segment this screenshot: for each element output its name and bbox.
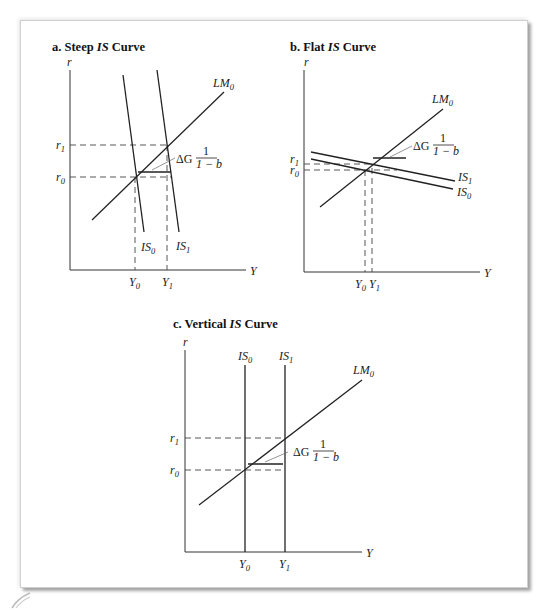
panel-b-lm0-label: LM0 — [431, 92, 454, 108]
panel-b-y-axis-label: r — [304, 55, 309, 69]
panel-a-is1-label: IS1 — [175, 239, 190, 255]
panel-c-multiplier-label: ΔG 1 1 − b — [293, 437, 339, 464]
panel-c-r1-label: r1 — [170, 431, 179, 447]
panel-a-title: a. Steep IS Curve — [52, 40, 146, 54]
panel-b-is0-label: IS0 — [456, 185, 472, 201]
panel-c-is0-label: IS0 — [237, 349, 253, 365]
panel-a-r1-label: r1 — [56, 138, 65, 154]
panel-a-lm0-label: LM0 — [212, 76, 235, 92]
svg-text:1 − b: 1 − b — [433, 144, 459, 158]
panel-b-flat-is: b. Flat IS Curve r Y LM0 IS1 IS0 r1 r0 Y… — [290, 40, 492, 293]
panel-a-y0-label: Y0 — [129, 275, 141, 291]
panel-c-lm0-label: LM0 — [352, 363, 375, 379]
svg-text:1 − b: 1 − b — [196, 157, 222, 171]
svg-text:1: 1 — [320, 437, 326, 451]
svg-text:ΔG: ΔG — [413, 139, 430, 153]
panel-a-is0-label: IS0 — [140, 240, 156, 256]
svg-text:1: 1 — [203, 144, 209, 158]
svg-text:1 − b: 1 − b — [313, 450, 339, 464]
panel-b-y0-label: Y0 — [355, 277, 367, 293]
panel-b-multiplier-label: ΔG 1 1 − b — [413, 131, 459, 158]
panel-b-is0-curve — [311, 159, 453, 189]
panel-a-y1-label: Y1 — [162, 275, 173, 291]
panel-c-r0-label: r0 — [170, 463, 180, 479]
page-curl-icon — [10, 590, 32, 610]
panel-b-shift-leader — [390, 146, 412, 157]
panel-c-x-axis-label: Y — [366, 546, 374, 560]
panel-b-title: b. Flat IS Curve — [290, 40, 377, 54]
panel-a-is0-curve — [123, 75, 144, 232]
panel-a-shift-leader — [152, 158, 175, 170]
panel-b-x-axis-label: Y — [484, 266, 492, 280]
panel-b-is1-label: IS1 — [457, 170, 472, 186]
panel-c-y1-label: Y1 — [279, 557, 290, 573]
is-lm-figure: a. Steep IS Curve r Y LM0 IS0 IS1 r1 r0 … — [0, 0, 548, 613]
panel-c-y-axis-label: r — [183, 335, 188, 349]
svg-text:ΔG: ΔG — [293, 445, 310, 459]
panel-a-is1-curve — [157, 70, 179, 232]
panel-a-steep-is: a. Steep IS Curve r Y LM0 IS0 IS1 r1 r0 … — [52, 40, 258, 291]
panel-c-lm0-curve — [199, 380, 362, 505]
panel-a-y-axis-label: r — [67, 55, 72, 69]
svg-text:1: 1 — [440, 131, 446, 145]
panel-c-is1-label: IS1 — [278, 349, 293, 365]
panel-c-vertical-is: c. Vertical IS Curve r Y IS0 IS1 LM0 r1 … — [170, 317, 375, 573]
panel-c-y0-label: Y0 — [239, 557, 251, 573]
svg-text:ΔG: ΔG — [176, 152, 193, 166]
panel-c-title: c. Vertical IS Curve — [173, 317, 278, 331]
panel-b-y1-label: Y1 — [369, 277, 380, 293]
panel-a-x-axis-label: Y — [250, 264, 258, 278]
panel-a-r0-label: r0 — [56, 170, 66, 186]
panel-a-multiplier-label: ΔG 1 1 − b — [176, 144, 222, 171]
